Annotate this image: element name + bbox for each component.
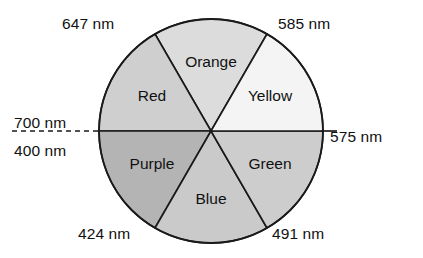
wedge-label-red: Red bbox=[138, 87, 166, 104]
wavelength-callout-400: 400 nm bbox=[14, 142, 66, 160]
wavelength-callout-491: 491 nm bbox=[272, 225, 324, 243]
wavelength-callout-575: 575 nm bbox=[330, 128, 382, 146]
wedge-label-orange: Orange bbox=[185, 53, 237, 70]
wedge-label-yellow: Yellow bbox=[248, 87, 293, 104]
wavelength-callout-424: 424 nm bbox=[78, 225, 130, 243]
wavelength-callout-647: 647 nm bbox=[62, 15, 114, 33]
wavelength-callout-585: 585 nm bbox=[278, 15, 330, 33]
color-wheel-diagram: Orange Red Purple Blue Green Yellow 647 … bbox=[0, 0, 423, 258]
wedge-label-purple: Purple bbox=[130, 155, 175, 172]
wavelength-callout-700: 700 nm bbox=[14, 114, 66, 132]
wedge-label-blue: Blue bbox=[195, 190, 226, 207]
wedge-label-green: Green bbox=[248, 155, 291, 172]
